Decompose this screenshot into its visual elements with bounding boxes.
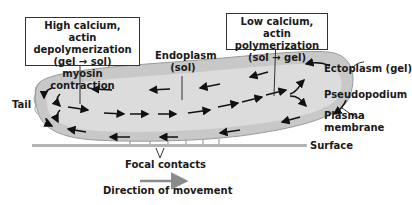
focal-contacts-leader [156,148,164,158]
direction-of-movement-label: Direction of movement [103,185,232,197]
right-callout-line1: Low calcium, [230,16,324,28]
left-callout-line3: (gel → sol) [29,56,136,68]
pseudopodium-label: Pseudopodium [324,89,407,101]
endoplasm-label: Endoplasm (sol) [155,50,211,74]
ectoplasm-label: Ectoplasm (gel) [324,63,412,75]
right-callout-line2: actin polymerization [230,28,324,52]
left-callout-line4: myosin contraction [29,68,136,92]
left-callout-line1: High calcium, [29,20,136,32]
plasma-membrane-label: Plasma membrane [324,110,384,134]
right-callout-line3: (sol → gel) [230,52,324,64]
tail-label: Tail [12,99,31,111]
right-callout-box: Low calcium, actin polymerization (sol →… [226,13,328,50]
focal-contacts-label: Focal contacts [125,159,206,171]
surface-label: Surface [310,140,353,152]
surface-line [32,144,307,147]
left-callout-line2: actin depolymerization [29,32,136,56]
left-callout-box: High calcium, actin depolymerization (ge… [25,17,140,66]
